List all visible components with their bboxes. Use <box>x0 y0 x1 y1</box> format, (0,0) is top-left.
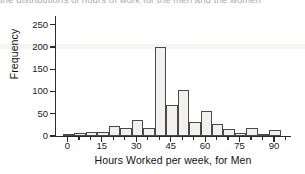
histogram-bar <box>189 122 200 136</box>
x-tick-minor <box>193 136 194 140</box>
x-axis-title: Hours Worked per week, for Men <box>55 154 291 166</box>
figure-caption-clipped: the distributions of hours of work for t… <box>0 0 305 5</box>
y-tick-label: 200 <box>22 42 48 52</box>
y-tick <box>50 69 55 70</box>
histogram-bar <box>269 130 280 136</box>
histogram-bar <box>178 90 189 136</box>
histogram-bar <box>86 132 97 136</box>
histogram-bar <box>246 128 257 136</box>
x-tick-minor <box>227 136 228 140</box>
histogram-bar <box>212 124 223 136</box>
y-tick <box>50 91 55 92</box>
histogram-bar <box>166 105 177 136</box>
histogram-bar <box>120 128 131 136</box>
y-tick <box>50 113 55 114</box>
y-axis-title: Frequency <box>8 14 20 94</box>
y-tick <box>50 24 55 25</box>
x-tick-minor <box>78 136 79 140</box>
x-tick-minor <box>159 136 160 140</box>
y-tick-label: 100 <box>22 86 48 96</box>
x-tick-label: 15 <box>90 141 114 151</box>
x-tick-label: 90 <box>262 141 286 151</box>
y-tick-label: 0 <box>22 131 48 141</box>
x-tick-label: 75 <box>228 141 252 151</box>
x-tick-minor <box>262 136 263 140</box>
x-tick-minor <box>124 136 125 140</box>
histogram-bar <box>74 133 85 136</box>
x-tick-label: 45 <box>159 141 183 151</box>
histogram-bar <box>143 128 154 136</box>
y-tick-label: 250 <box>22 20 48 30</box>
histogram-bar <box>97 132 108 136</box>
histogram-bar <box>109 126 120 136</box>
y-tick <box>50 135 55 136</box>
x-tick-minor <box>182 136 183 140</box>
x-tick-minor <box>285 136 286 140</box>
x-tick-minor <box>250 136 251 140</box>
histogram-bars <box>56 18 290 136</box>
x-tick-minor <box>90 136 91 140</box>
histogram-bar <box>258 134 269 136</box>
x-tick-minor <box>216 136 217 140</box>
x-tick-minor <box>147 136 148 140</box>
histogram-bar <box>235 133 246 136</box>
x-tick-label: 30 <box>124 141 148 151</box>
histogram-bar <box>201 111 212 136</box>
histogram-bar <box>223 129 234 136</box>
y-tick-label: 150 <box>22 64 48 74</box>
histogram-bar <box>132 120 143 136</box>
histogram-bar <box>155 47 166 136</box>
histogram-figure: the distributions of hours of work for t… <box>0 0 305 174</box>
x-tick-minor <box>113 136 114 140</box>
y-tick <box>50 46 55 47</box>
x-tick-label: 0 <box>55 141 79 151</box>
x-tick-label: 60 <box>193 141 217 151</box>
y-tick-label: 50 <box>22 109 48 119</box>
histogram-bar <box>63 134 74 136</box>
